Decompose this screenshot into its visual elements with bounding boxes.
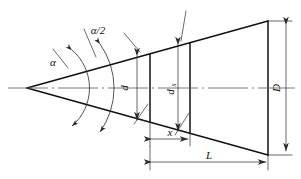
- label-diameter-dx: d x: [164, 83, 178, 95]
- cone-lower-edge: [27, 88, 268, 155]
- label-alpha: α: [50, 56, 56, 68]
- label-length-x: x: [167, 126, 173, 138]
- dimension-d: [124, 33, 148, 124]
- label-alpha-half: α/2: [91, 24, 106, 36]
- label-length-L: L: [205, 149, 212, 161]
- dimension-d-leader: [124, 33, 140, 52]
- cone-taper-diagram: α α/2 d d x D x L: [0, 0, 301, 179]
- label-diameter-d: d: [118, 85, 130, 91]
- dimension-dx-leader: [181, 11, 186, 41]
- dimension-dx: [175, 11, 189, 135]
- cone-upper-edge: [27, 21, 268, 88]
- label-diameter-dx-base: d: [164, 89, 176, 95]
- label-diameter-dx-subscript: x: [169, 83, 178, 88]
- diagram-canvas: α α/2 d d x D x L: [0, 0, 301, 179]
- label-diameter-D: D: [270, 84, 282, 93]
